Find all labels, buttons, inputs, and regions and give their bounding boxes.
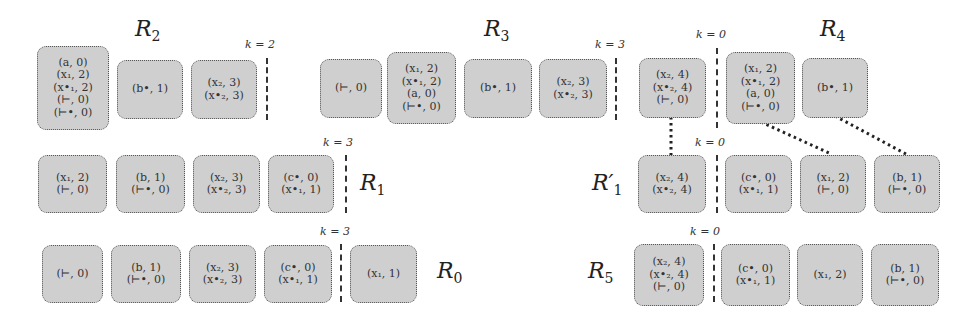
state-box: (x₂, 3) (x•₂, 3) bbox=[189, 245, 256, 303]
entry: (x₁, 2) bbox=[744, 63, 777, 76]
state-box: (c•, 0) (x•₁, 1) bbox=[264, 245, 332, 303]
connector-b-box bbox=[835, 116, 906, 154]
entry: (x•₂, 4) bbox=[652, 184, 692, 197]
state-box: (x₂, 4) (x•₂, 4) (⊢, 0) bbox=[634, 244, 704, 306]
state-box: (b, 1) (⊢•, 0) bbox=[871, 244, 939, 306]
state-box: (x₁, 2) bbox=[797, 244, 863, 306]
state-box: (x₂, 3) (x•₂, 3) bbox=[539, 59, 607, 118]
entry: (x•₂, 3) bbox=[553, 89, 593, 102]
entry: (⊢•, 0) bbox=[886, 275, 925, 288]
entry: (⊢, 0) bbox=[653, 281, 685, 294]
state-box: (x₁, 2) (⊢, 0) bbox=[800, 155, 866, 213]
state-box: (b•, 1) bbox=[117, 60, 183, 119]
entry: (⊢, 0) bbox=[656, 94, 688, 107]
entry: (x•₂, 3) bbox=[204, 90, 244, 103]
state-box: (⊢, 0) bbox=[320, 59, 382, 118]
entry: (⊢•, 0) bbox=[127, 274, 166, 287]
state-box: (x₁, 2) (⊢, 0) bbox=[38, 155, 107, 213]
entry: (⊢, 0) bbox=[56, 268, 88, 281]
entry: (x•₁, 1) bbox=[281, 184, 321, 197]
state-box: (b, 1) (⊢•, 0) bbox=[111, 245, 181, 303]
entry: (⊢•, 0) bbox=[131, 184, 170, 197]
state-box: (b, 1) (⊢•, 0) bbox=[874, 155, 940, 213]
state-box: (b•, 1) bbox=[464, 59, 532, 118]
entry: (⊢, 0) bbox=[335, 82, 367, 95]
entry: (x•₁, 1) bbox=[736, 275, 776, 288]
entry: (x₂, 4) bbox=[652, 256, 685, 269]
state-box: (b, 1) (⊢•, 0) bbox=[116, 155, 185, 213]
state-box: (x₁, 2) (x•₁, 2) (a, 0) (⊢•, 0) bbox=[726, 52, 795, 124]
state-box: (x₂, 3) (x•₂, 3) bbox=[193, 155, 260, 213]
state-box: (x₁, 1) bbox=[350, 245, 417, 303]
state-box: (c•, 0) (x•₁, 1) bbox=[721, 244, 790, 306]
entry: (x₁, 1) bbox=[367, 268, 400, 281]
entry: (x•₁, 1) bbox=[739, 184, 779, 197]
entry: (x₁, 2) bbox=[813, 269, 846, 282]
entry: (a, 0) bbox=[746, 88, 775, 101]
entry: (a, 0) bbox=[407, 88, 436, 101]
state-box: (x₁, 2) (x•₁, 2) (a, 0) (⊢•, 0) bbox=[387, 52, 456, 124]
state-box: (b•, 1) bbox=[802, 58, 868, 118]
entry: (b•, 1) bbox=[817, 82, 853, 95]
state-box: (c•, 0) (x•₁, 1) bbox=[268, 155, 334, 213]
state-box: (a, 0) (x₁, 2) (x•₁, 2) (⊢, 0) (⊢•, 0) bbox=[37, 46, 109, 130]
entry: (x₂, 3) bbox=[207, 77, 240, 90]
entry: (⊢•, 0) bbox=[54, 107, 93, 120]
entry: (⊢•, 0) bbox=[888, 184, 927, 197]
entry: (x•₁, 1) bbox=[278, 274, 318, 287]
state-box: (c•, 0) (x•₁, 1) bbox=[725, 155, 792, 213]
entry: (x₂, 3) bbox=[556, 76, 589, 89]
state-box: (x₂, 4) (x•₂, 4) (⊢, 0) bbox=[639, 58, 706, 118]
entry: (x₂, 4) bbox=[656, 69, 689, 82]
state-box: (⊢, 0) bbox=[42, 245, 103, 303]
entry: (x•₂, 3) bbox=[207, 184, 247, 197]
entry: (x₁, 2) bbox=[405, 63, 438, 76]
entry: (b•, 1) bbox=[480, 82, 516, 95]
connector-x1-box bbox=[761, 122, 831, 154]
state-box: (x₂, 3) (x•₂, 3) bbox=[191, 60, 257, 119]
entry: (b•, 1) bbox=[132, 83, 168, 96]
state-box: (x₂, 4) (x•₂, 4) bbox=[638, 155, 706, 213]
entry: (x₁, 2) bbox=[56, 69, 89, 82]
entry: (x•₂, 3) bbox=[203, 274, 243, 287]
entry: (⊢•, 0) bbox=[741, 101, 780, 114]
entry: (⊢, 0) bbox=[57, 94, 89, 107]
entry: (⊢•, 0) bbox=[402, 101, 441, 114]
entry: (⊢, 0) bbox=[56, 184, 88, 197]
entry: (⊢, 0) bbox=[817, 184, 849, 197]
